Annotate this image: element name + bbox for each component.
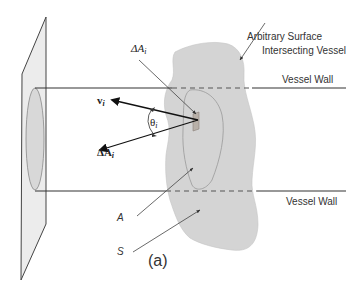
area-A-label: A bbox=[116, 212, 124, 223]
surface-label-line2: Intersecting Vessel bbox=[262, 45, 346, 56]
vessel-wall-bottom-label: Vessel Wall bbox=[286, 196, 337, 207]
vessel-diagram: Arbitrary Surface Intersecting Vessel Ve… bbox=[0, 0, 364, 307]
delta-a-scalar-label: ΔAi bbox=[130, 42, 146, 56]
panel-label: (a) bbox=[148, 252, 168, 269]
theta-label: θi bbox=[150, 116, 158, 130]
delta-a-vector-label: ΔAi bbox=[97, 146, 115, 160]
theta-arc-tick-bottom bbox=[152, 134, 157, 137]
arbitrary-surface bbox=[164, 42, 258, 250]
surface-label-line1: Arbitrary Surface bbox=[247, 31, 322, 42]
vessel-wall-top-label: Vessel Wall bbox=[282, 74, 333, 85]
surface-S-label: S bbox=[117, 246, 124, 257]
velocity-label: vi bbox=[97, 94, 106, 108]
vessel-opening-ellipse bbox=[26, 88, 44, 190]
